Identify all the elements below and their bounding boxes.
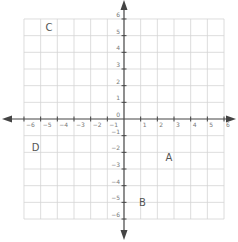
x-tick-label: 6 [226,121,230,128]
point-label-d: D [32,142,40,153]
x-tick-label: −2 [93,121,102,128]
x-tick-label: −4 [59,121,68,128]
x-tick-label: 2 [159,121,163,128]
y-tick-label: −5 [111,194,120,201]
y-tick-label: 4 [116,44,120,51]
y-tick-label: 6 [116,11,120,18]
origin-label: 0 [116,111,120,118]
y-tick-label: 5 [116,28,120,35]
point-labels: ABCD [32,22,173,208]
arrow-down-icon [121,230,128,240]
y-tick-label: −2 [111,144,120,151]
y-tick-label: −4 [111,178,120,185]
x-tick-label: −3 [76,121,85,128]
point-label-b: B [139,197,146,208]
y-tick-label: 3 [116,61,120,68]
x-tick-label: 3 [176,121,180,128]
arrow-up-icon [121,0,128,10]
x-tick-label: 5 [209,121,213,128]
x-tick-label: −5 [43,121,52,128]
point-label-c: C [45,22,52,33]
tick-labels: −6−5−4−3−2−11234566543210−1−2−3−4−5−6 [26,11,230,218]
y-tick-label: 1 [116,94,120,101]
coordinate-plane: −6−5−4−3−2−11234566543210−1−2−3−4−5−6 AB… [0,0,238,242]
y-tick-label: −3 [111,161,120,168]
arrow-left-icon [2,116,12,123]
x-tick-label: 4 [193,121,197,128]
x-tick-label: 1 [143,121,147,128]
y-tick-label: 2 [116,78,120,85]
point-label-a: A [166,152,173,163]
x-tick-label: −6 [26,121,35,128]
y-tick-label: −6 [111,211,120,218]
y-tick-label: −1 [111,128,120,135]
